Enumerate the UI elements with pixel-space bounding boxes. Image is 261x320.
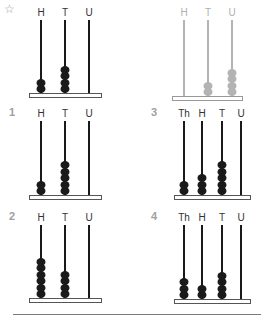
- column-label-u: U: [85, 212, 92, 223]
- abacus-base: [174, 299, 251, 304]
- abacus-bead: [228, 69, 237, 77]
- column-label-th: Th: [178, 212, 190, 223]
- abacus-base: [29, 93, 102, 98]
- column-label-u: U: [85, 7, 92, 18]
- abacus-bead: [61, 66, 70, 74]
- abacus-rod: [240, 225, 242, 299]
- column-label-h: H: [37, 7, 44, 18]
- abacus-bead: [218, 272, 227, 280]
- column-label-h: H: [198, 212, 205, 223]
- problem-number: 2: [9, 210, 15, 222]
- abacus-rod: [88, 20, 90, 93]
- column-label-t: T: [219, 212, 225, 223]
- abacus-base: [29, 195, 102, 200]
- problem-number: 1: [9, 106, 15, 118]
- abacus-bead: [37, 79, 46, 87]
- problem-number: 4: [151, 210, 157, 222]
- star-icon: ☆: [4, 2, 15, 16]
- abacus-bead: [61, 161, 70, 169]
- abacus-bead: [198, 285, 207, 293]
- problem-number: 3: [151, 106, 157, 118]
- abacus-bead: [37, 258, 46, 266]
- column-label-h: H: [37, 108, 44, 119]
- column-label-u: U: [228, 7, 235, 18]
- abacus-rod: [240, 121, 242, 195]
- abacus-bead: [37, 181, 46, 189]
- column-label-u: U: [237, 212, 244, 223]
- column-label-u: U: [85, 108, 92, 119]
- abacus-rod: [88, 121, 90, 195]
- column-label-h: H: [198, 108, 205, 119]
- abacus-bead: [180, 181, 189, 189]
- column-label-h: H: [180, 7, 187, 18]
- abacus-bead: [61, 271, 70, 279]
- column-label-t: T: [205, 7, 211, 18]
- abacus-bead: [180, 278, 189, 286]
- abacus-rod: [183, 20, 185, 96]
- abacus-base: [29, 298, 102, 303]
- column-label-t: T: [219, 108, 225, 119]
- bottom-divider: [13, 314, 261, 315]
- column-label-t: T: [62, 7, 68, 18]
- column-label-u: U: [237, 108, 244, 119]
- abacus-bead: [204, 82, 213, 90]
- abacus-bead: [218, 161, 227, 169]
- column-label-h: H: [37, 212, 44, 223]
- abacus-base: [172, 96, 243, 101]
- abacus-bead: [198, 174, 207, 182]
- abacus-rod: [88, 225, 90, 298]
- column-label-th: Th: [178, 108, 190, 119]
- column-label-t: T: [62, 108, 68, 119]
- column-label-t: T: [62, 212, 68, 223]
- abacus-base: [174, 195, 251, 200]
